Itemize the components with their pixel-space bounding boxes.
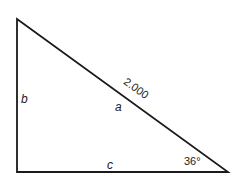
label-side-c: c bbox=[107, 158, 113, 172]
label-angle: 36° bbox=[184, 155, 201, 167]
right-triangle-diagram: b 2.000 a c 36° bbox=[0, 0, 242, 174]
label-side-a: a bbox=[115, 100, 122, 114]
label-side-b: b bbox=[21, 92, 28, 106]
triangle-outline bbox=[17, 19, 228, 172]
